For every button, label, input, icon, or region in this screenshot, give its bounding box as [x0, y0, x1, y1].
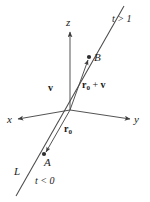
point-A-label: A — [44, 157, 51, 168]
figure-canvas — [0, 0, 150, 202]
vector-sum-sub: 0 — [86, 84, 90, 92]
axis-y — [70, 110, 130, 119]
vector-sum-operator: + — [90, 79, 101, 90]
vector-r0-plus-v-label: r0 + v — [82, 80, 106, 90]
vector-r0-label: r0 — [64, 124, 72, 134]
point-B-marker — [87, 55, 91, 59]
annotation-t-less-than-zero: t < 0 — [35, 176, 55, 186]
vector-v-label: v — [48, 83, 53, 93]
vector-line-figure: z x y t > 1 B A v r0 + v r0 L t < 0 — [0, 0, 150, 202]
line-L-label: L — [14, 166, 20, 177]
axis-x-label: x — [7, 114, 12, 125]
point-B-label: B — [94, 52, 101, 63]
axis-z-label: z — [66, 17, 70, 28]
axis-y-label: y — [134, 114, 139, 125]
vector-sum-second: v — [101, 79, 106, 90]
vector-r0-sub: 0 — [68, 128, 72, 136]
annotation-t-greater-than-one: t > 1 — [112, 14, 132, 24]
